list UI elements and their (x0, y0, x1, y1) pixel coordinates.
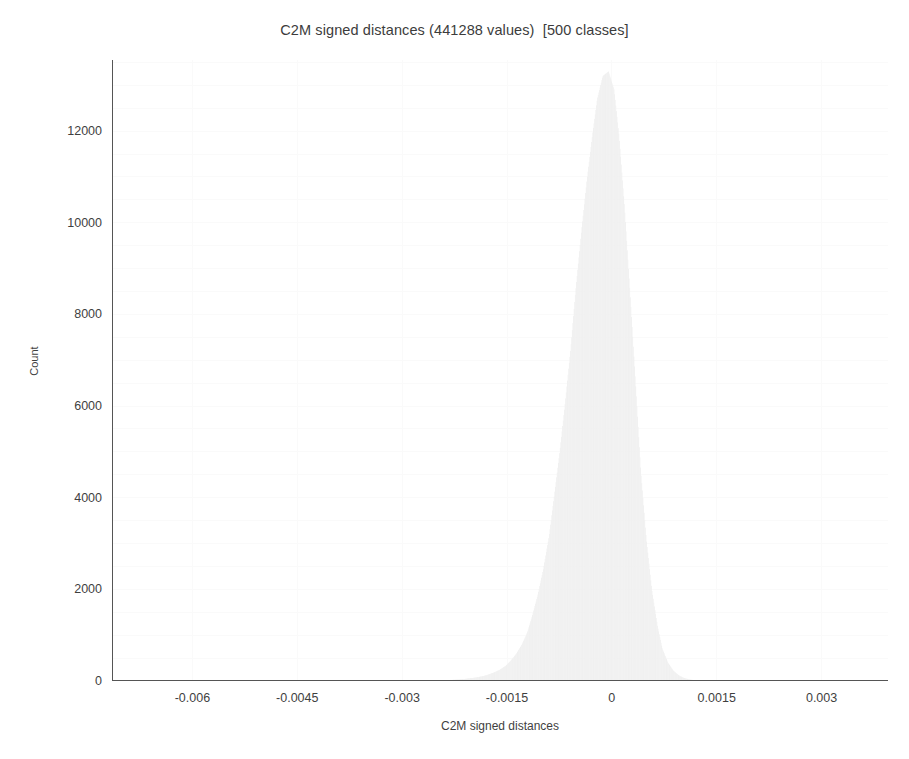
x-tick-label: -0.0015 (486, 691, 528, 705)
x-tick-label: 0.003 (806, 691, 837, 705)
y-tick-label: 10000 (20, 216, 102, 230)
x-tick-label: -0.003 (384, 691, 419, 705)
x-tick-label: -0.0045 (276, 691, 318, 705)
y-axis-title: Count (28, 321, 40, 401)
plot-canvas (112, 60, 888, 681)
y-tick-label: 8000 (20, 307, 102, 321)
x-axis-title: C2M signed distances (112, 719, 888, 733)
y-tick-label: 6000 (20, 399, 102, 413)
y-tick-label: 2000 (20, 582, 102, 596)
x-tick-label: -0.006 (175, 691, 210, 705)
histogram-chart: C2M signed distances (441288 values) [50… (0, 0, 909, 759)
gridlines (112, 60, 888, 681)
y-tick-label: 12000 (20, 124, 102, 138)
y-tick-label: 4000 (20, 491, 102, 505)
x-tick-label: 0 (608, 691, 615, 705)
y-tick-label: 0 (20, 674, 102, 688)
plot-area (112, 60, 888, 681)
x-tick-label: 0.0015 (698, 691, 736, 705)
chart-title: C2M signed distances (441288 values) [50… (0, 22, 909, 38)
axis-ticks (112, 62, 885, 681)
